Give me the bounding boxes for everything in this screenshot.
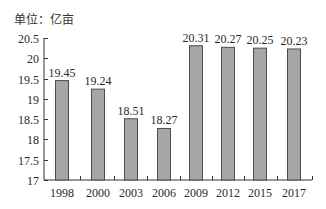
y-tick-label: 17 (27, 174, 39, 188)
bar-value-label: 20.25 (247, 33, 274, 47)
bar-value-label: 19.45 (49, 66, 76, 80)
y-tick-label: 19 (27, 93, 39, 107)
x-tick-label: 2000 (86, 186, 110, 200)
plot-area: 1717.51818.51919.52020.519.45199819.2420… (0, 0, 326, 209)
bar-value-label: 20.23 (281, 34, 308, 48)
bar (125, 119, 138, 180)
bar-chart: 单位：亿亩 1717.51818.51919.52020.519.4519981… (0, 0, 326, 209)
bar (158, 128, 171, 180)
bar (92, 89, 105, 180)
x-tick-label: 2015 (248, 186, 272, 200)
bar (254, 48, 267, 180)
bar (288, 49, 301, 180)
y-tick-label: 18 (27, 133, 39, 147)
y-tick-label: 20.5 (18, 32, 39, 46)
x-tick-label: 2006 (152, 186, 176, 200)
bar-value-label: 18.51 (118, 104, 145, 118)
bar (222, 47, 235, 180)
bar-value-label: 18.27 (151, 113, 178, 127)
y-tick-label: 17.5 (18, 154, 39, 168)
x-tick-label: 2009 (184, 186, 208, 200)
bar (190, 46, 203, 180)
x-tick-label: 2012 (216, 186, 240, 200)
y-tick-label: 19.5 (18, 73, 39, 87)
x-tick-label: 2003 (119, 186, 143, 200)
y-tick-label: 20 (27, 52, 39, 66)
bar-value-label: 19.24 (85, 74, 112, 88)
bar-value-label: 20.31 (183, 31, 210, 45)
x-tick-label: 1998 (50, 186, 74, 200)
unit-label: 单位：亿亩 (14, 10, 74, 27)
bar (56, 81, 69, 180)
bar-value-label: 20.27 (215, 32, 242, 46)
y-tick-label: 18.5 (18, 113, 39, 127)
x-tick-label: 2017 (282, 186, 306, 200)
